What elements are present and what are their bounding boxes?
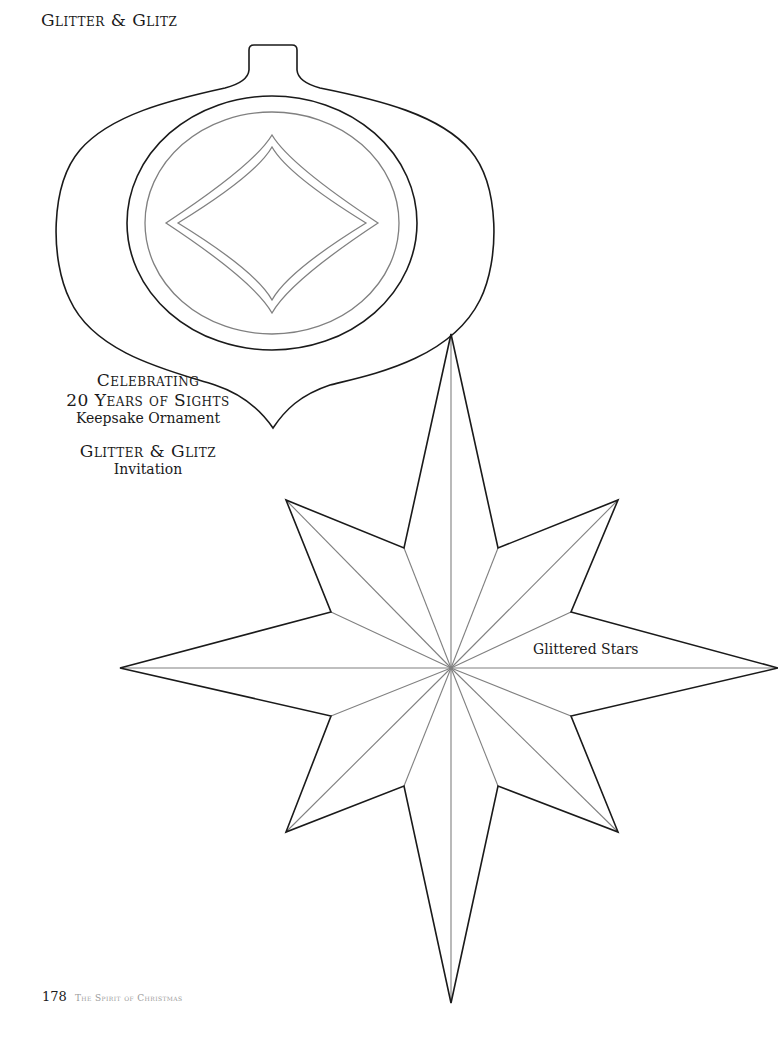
- ornament-diamond-outer: [166, 135, 378, 313]
- caption-block: Celebrating 20 Years of Sights Keepsake …: [60, 370, 236, 477]
- star-label: Glittered Stars: [533, 641, 639, 657]
- ornament-caption-line3: Keepsake Ornament: [60, 410, 236, 427]
- page-title: Glitter & Glitz: [41, 10, 177, 30]
- page-number: 178: [42, 989, 67, 1004]
- pattern-artwork: [0, 0, 778, 1037]
- ornament-caption-line2: 20 Years of Sights: [60, 390, 236, 410]
- ornament-diamond-inner: [178, 147, 366, 300]
- invitation-caption-line2: Invitation: [60, 461, 236, 478]
- page-footer: 178 The Spirit of Christmas: [42, 989, 183, 1004]
- ornament-caption-line1: Celebrating: [60, 370, 236, 390]
- invitation-caption-line1: Glitter & Glitz: [60, 441, 236, 461]
- book-title: The Spirit of Christmas: [75, 993, 183, 1003]
